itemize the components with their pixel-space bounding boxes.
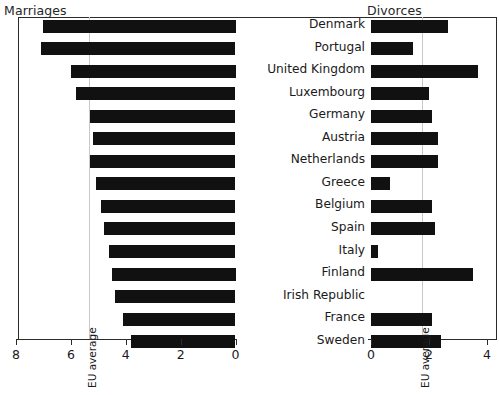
category-label: Finland	[321, 266, 365, 279]
marriages-bar	[96, 177, 236, 190]
category-label: France	[324, 311, 365, 324]
marriages-bar	[123, 313, 235, 326]
axis-tick-mark	[371, 339, 372, 345]
category-label: Portugal	[315, 41, 365, 54]
divorces-bar	[371, 200, 432, 213]
category-label: Netherlands	[291, 153, 365, 166]
divorces-bar	[371, 132, 438, 145]
marriages-bar	[109, 245, 235, 258]
divorces-bar	[371, 313, 432, 326]
axis-tick-mark	[16, 339, 17, 345]
paired-bar-chart: Marriages Divorces DenmarkPortugalUnited…	[0, 0, 499, 395]
divorces-panel-title: Divorces	[367, 3, 422, 18]
divorces-bar	[371, 110, 432, 123]
axis-tick-label: 0	[367, 347, 375, 362]
marriages-bar	[93, 132, 236, 145]
plot-left-border	[18, 17, 19, 339]
category-label: United Kingdom	[267, 63, 365, 76]
marriages-bar	[90, 110, 235, 123]
divorces-bar	[371, 155, 438, 168]
divorces-bar	[371, 65, 478, 78]
axis-tick-label: 2	[177, 347, 185, 362]
category-label: Greece	[322, 176, 365, 189]
divorces-bar	[371, 177, 390, 190]
axis-tick-label: 0	[232, 347, 240, 362]
category-label: Belgium	[315, 198, 365, 211]
marriages-bar	[101, 200, 235, 213]
divorces-bar	[371, 87, 429, 100]
axis-tick-label: 6	[67, 347, 75, 362]
marriages-eu-average-label: EU average	[86, 327, 98, 388]
divorces-eu-average-label: EU average	[419, 327, 431, 388]
marriages-bar	[76, 87, 235, 100]
axis-tick-label: 4	[122, 347, 130, 362]
divorces-bar	[371, 245, 378, 258]
divorces-bar	[371, 20, 448, 33]
axis-tick-mark	[181, 339, 182, 345]
category-label: Italy	[339, 244, 365, 257]
marriages-bar	[104, 222, 236, 235]
marriages-bar	[41, 42, 236, 55]
category-label: Spain	[331, 221, 365, 234]
divorces-bar	[371, 42, 413, 55]
axis-tick-label: 4	[483, 347, 491, 362]
marriages-bar	[115, 290, 236, 303]
category-label: Germany	[309, 108, 365, 121]
axis-tick-label: 8	[12, 347, 20, 362]
axis-tick-mark	[71, 339, 72, 345]
marriages-bar	[43, 20, 235, 33]
category-label: Sweden	[317, 334, 365, 347]
marriages-bar	[90, 155, 235, 168]
axis-tick-mark	[126, 339, 127, 345]
marriages-bar	[112, 268, 235, 281]
category-label: Irish Republic	[283, 289, 365, 302]
marriages-bar	[71, 65, 236, 78]
divorces-bar	[371, 222, 435, 235]
divorces-bar	[371, 268, 473, 281]
marriages-panel-title: Marriages	[4, 3, 67, 18]
axis-tick-mark	[236, 339, 237, 345]
axis-tick-mark	[487, 339, 488, 345]
category-label: Luxembourg	[289, 86, 365, 99]
category-label: Denmark	[309, 18, 365, 31]
category-labels-layer: DenmarkPortugalUnited KingdomLuxembourgG…	[238, 17, 365, 339]
category-label: Austria	[322, 131, 365, 144]
plot-right-border	[496, 17, 497, 339]
